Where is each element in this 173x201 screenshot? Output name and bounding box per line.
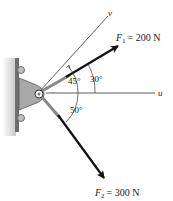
angle-50-label: 50° (70, 105, 83, 115)
f2-label: F2= 300 N (94, 187, 139, 200)
wall-shading (2, 58, 16, 136)
force-diagram: u v F1= 200 N F2= 300 N 45° 30° 50° (0, 0, 173, 201)
bolt-bottom-icon (18, 115, 25, 122)
angle-arc-45-tick-icon (66, 65, 70, 69)
v-axis-label: v (108, 8, 112, 18)
f1-label: F1= 200 N (115, 32, 160, 45)
pin-center (38, 93, 41, 96)
f1-rod (42, 75, 70, 91)
u-axis-label: u (158, 88, 163, 98)
f2-arrow (58, 115, 104, 178)
bolt-top-icon (18, 67, 25, 74)
angle-45-label: 45° (68, 76, 81, 86)
angle-30-label: 30° (90, 74, 103, 84)
f2-rod (42, 97, 60, 118)
